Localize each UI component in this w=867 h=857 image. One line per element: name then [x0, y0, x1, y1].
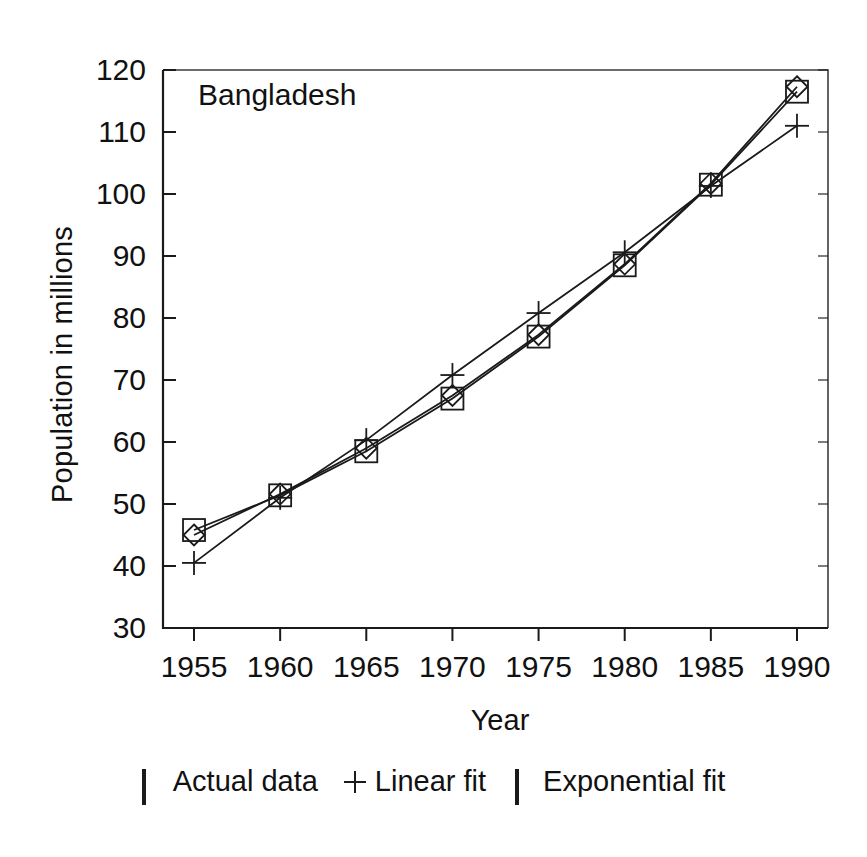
x-tick-label: 1985 — [677, 652, 744, 682]
series-lines — [194, 87, 797, 563]
y-tick-label: 120 — [46, 55, 146, 85]
x-tick-label: 1990 — [764, 652, 831, 682]
y-tick-label: 100 — [46, 179, 146, 209]
x-tick-label: 1965 — [333, 652, 400, 682]
legend-marker-plus-icon — [344, 771, 366, 793]
legend-entry: Linear fit — [344, 765, 486, 798]
legend-label: Linear fit — [375, 765, 486, 798]
x-tick-label: 1955 — [161, 652, 228, 682]
x-tick-label: 1975 — [505, 652, 572, 682]
legend-entry: Actual data — [142, 765, 318, 798]
x-tick-label: 1960 — [247, 652, 314, 682]
y-tick-label: 110 — [46, 117, 146, 147]
y-tick-label: 80 — [46, 303, 146, 333]
diamond-icon — [515, 769, 519, 805]
y-tick-label: 60 — [46, 427, 146, 457]
y-tick-label: 90 — [46, 241, 146, 271]
legend-entry: Exponential fit — [512, 765, 725, 798]
x-tick-label: 1980 — [591, 652, 658, 682]
y-tick-label: 70 — [46, 365, 146, 395]
square-icon — [142, 769, 146, 805]
legend-label: Exponential fit — [543, 765, 725, 798]
y-axis-tick-labels: 30405060708090100110120 — [46, 0, 146, 857]
chart-title: Bangladesh — [198, 78, 356, 112]
axes-frame — [163, 70, 828, 628]
legend-marker-diamond-icon — [512, 771, 534, 793]
y-tick-label: 40 — [46, 551, 146, 581]
series-markers — [182, 76, 809, 575]
y-tick-label: 50 — [46, 489, 146, 519]
legend-label: Actual data — [173, 765, 318, 798]
x-tick-label: 1970 — [419, 652, 486, 682]
legend-marker-square-icon — [142, 771, 164, 793]
x-axis-tick-labels: 19551960196519701975198019851990 — [0, 652, 867, 692]
x-axis-title: Year — [170, 704, 830, 737]
axis-tick-marks — [163, 70, 828, 641]
y-tick-label: 30 — [46, 613, 146, 643]
chart-figure: Bangladesh Population in millions Year 3… — [0, 0, 867, 857]
chart-legend: Actual dataLinear fitExponential fit — [0, 765, 867, 798]
